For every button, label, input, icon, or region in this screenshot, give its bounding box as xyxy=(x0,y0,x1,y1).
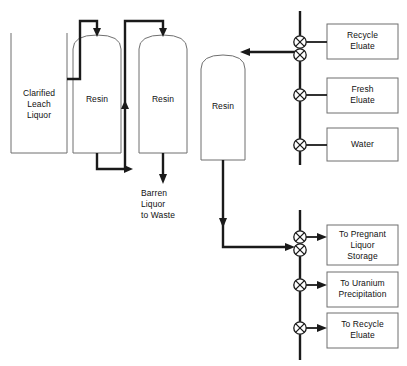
arrow-column-3-down xyxy=(219,218,227,228)
label-feed-tank: Clarified Leach Liquor xyxy=(11,88,67,121)
valve-pregnant-liquor[interactable] xyxy=(294,231,306,243)
label-water: Water xyxy=(327,139,398,150)
valve-fresh-eluate[interactable] xyxy=(294,89,306,101)
label-barren-liquor-waste: Barren Liquor to Waste xyxy=(141,188,205,221)
pipe-column-1-outlet xyxy=(97,153,125,169)
valve-recycle-return[interactable] xyxy=(294,322,306,334)
label-recycle-eluate: Recycle Eluate xyxy=(327,30,398,52)
valve-uranium-precipitation[interactable] xyxy=(294,279,306,291)
label-resin-column-2: Resin xyxy=(139,94,187,105)
arrow-to-pregnant-liquor xyxy=(317,233,327,241)
label-fresh-eluate: Fresh Eluate xyxy=(327,84,398,106)
diagram-canvas xyxy=(0,0,407,366)
process-flow-diagram: Clarified Leach Liquor Resin Resin Resin… xyxy=(0,0,407,366)
label-recycle-eluate-return: To Recycle Eluate xyxy=(327,319,398,341)
valve-recycle-eluate[interactable] xyxy=(294,36,306,48)
arrow-barren-liquor xyxy=(159,174,167,184)
pipe-column-3-outlet xyxy=(223,160,287,247)
arrow-into-column-3 xyxy=(240,48,250,56)
label-resin-column-1: Resin xyxy=(73,94,121,105)
label-resin-column-3: Resin xyxy=(201,101,245,112)
label-pregnant-liquor-storage: To Pregnant Liquor Storage xyxy=(327,229,398,262)
arrow-riser-up xyxy=(121,100,129,109)
label-uranium-precipitation: To Uranium Precipitation xyxy=(327,278,398,300)
valve-water[interactable] xyxy=(294,139,306,151)
arrow-to-recycle-eluate-return xyxy=(317,324,327,332)
valve-header-top[interactable] xyxy=(294,49,306,61)
valve-header-bottom[interactable] xyxy=(294,244,306,256)
arrow-to-uranium-precipitation xyxy=(317,281,327,289)
